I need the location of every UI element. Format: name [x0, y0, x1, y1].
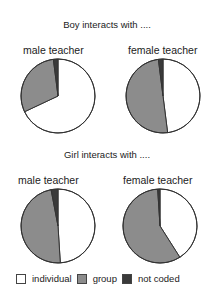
slice-individual: [58, 189, 95, 263]
pie-chart-girl-male: [17, 187, 99, 265]
legend-swatch-individual: [16, 274, 26, 284]
section-title-girl: Girl interacts with ....: [0, 149, 214, 160]
pie-label-boy-male: male teacher: [23, 44, 84, 56]
section-title-boy: Boy interacts with ....: [0, 19, 214, 30]
pie-chart-boy-female: [122, 57, 204, 135]
pie-label-boy-female: female teacher: [128, 44, 197, 56]
slice-individual: [163, 59, 200, 133]
legend-label-individual: individual: [32, 273, 72, 284]
legend: individual group not coded: [16, 273, 185, 284]
pie-chart-boy-male: [17, 57, 99, 135]
pie-label-girl-female: female teacher: [123, 174, 192, 186]
legend-label-not-coded: not coded: [138, 273, 180, 284]
legend-swatch-group: [77, 274, 87, 284]
legend-swatch-not-coded: [122, 274, 132, 284]
legend-label-group: group: [93, 273, 117, 284]
pie-label-girl-male: male teacher: [18, 174, 79, 186]
pie-chart-girl-female: [119, 187, 201, 265]
